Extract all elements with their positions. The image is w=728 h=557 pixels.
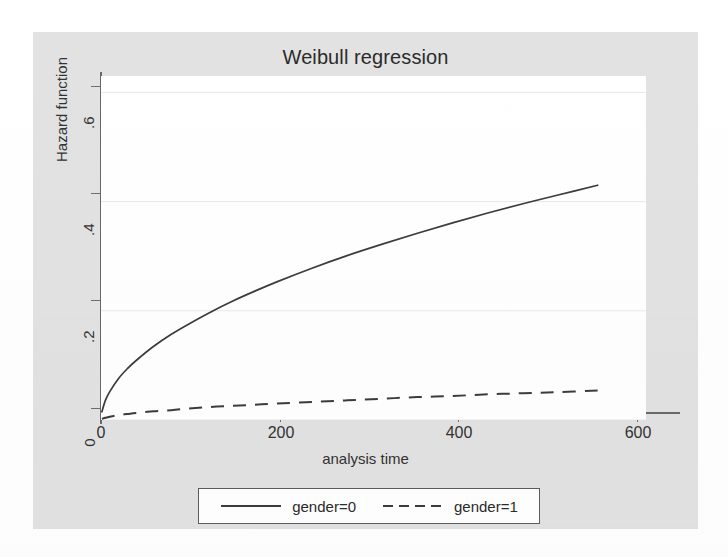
y-tick-label-3: 0	[49, 430, 89, 448]
gridlines	[101, 92, 646, 420]
series-line-gender-0	[102, 185, 598, 412]
legend: gender=0 gender=1	[198, 488, 540, 524]
y-tick-label-2: .2	[49, 322, 89, 340]
series-line-gender-1	[102, 391, 598, 419]
y-tick-mark-3	[91, 408, 100, 409]
y-tick-mark-2	[91, 300, 100, 301]
legend-key-solid-icon	[220, 499, 282, 513]
y-tick-mark-0	[91, 86, 100, 87]
x-tick-label-3: 600	[625, 424, 652, 442]
x-tick-label-1: 200	[268, 424, 295, 442]
graph-region: Weibull regression Hazard function .6 .4…	[33, 32, 698, 529]
chart-figure: Weibull regression Hazard function .6 .4…	[0, 0, 728, 557]
legend-label-gender-1: gender=1	[454, 498, 518, 515]
x-tick-label-0: 0	[97, 424, 106, 442]
x-tick-label-2: 400	[446, 424, 473, 442]
chart-title: Weibull regression	[33, 46, 698, 69]
y-tick-label-0: .6	[49, 108, 89, 126]
y-tick-mark-1	[91, 193, 100, 194]
plot-area	[101, 76, 646, 420]
legend-entry-gender-0: gender=0	[220, 498, 356, 515]
legend-label-gender-0: gender=0	[292, 498, 356, 515]
x-axis-title: analysis time	[33, 450, 698, 467]
y-tick-label-1: .4	[49, 215, 89, 233]
legend-key-dashed-icon	[382, 499, 444, 513]
plot-svg	[101, 76, 646, 420]
legend-entry-gender-1: gender=1	[382, 498, 518, 515]
